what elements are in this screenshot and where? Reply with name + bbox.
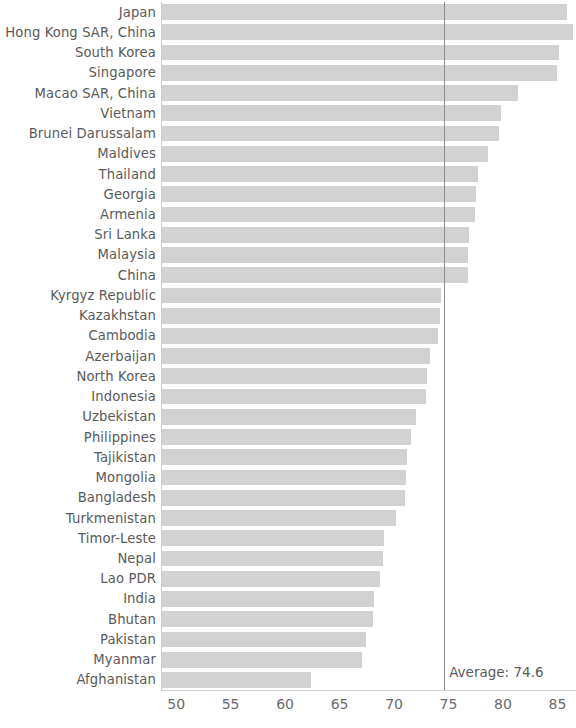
bar <box>162 247 468 263</box>
bar <box>162 348 430 364</box>
bar <box>162 591 374 607</box>
y-axis-label: Georgia <box>0 188 156 201</box>
y-axis-label: Indonesia <box>0 390 156 403</box>
y-axis-label: Armenia <box>0 208 156 221</box>
bar <box>162 449 407 465</box>
y-axis-label: Macao SAR, China <box>0 87 156 100</box>
bar <box>162 207 475 223</box>
bar <box>162 227 469 243</box>
x-axis-tick-label: 65 <box>331 697 349 711</box>
y-axis-label: Tajikistan <box>0 451 156 464</box>
bar <box>162 328 438 344</box>
horizontal-bar-chart: JapanHong Kong SAR, ChinaSouth KoreaSing… <box>0 0 576 728</box>
x-axis-tick-labels: 5055606570758085 <box>0 697 576 725</box>
bar <box>162 551 383 567</box>
bar <box>162 510 396 526</box>
bar <box>162 186 476 202</box>
y-axis-label: India <box>0 592 156 605</box>
bar <box>162 389 426 405</box>
bar <box>162 288 441 304</box>
bar <box>162 470 406 486</box>
plot-area <box>162 2 576 690</box>
y-axis-label: Afghanistan <box>0 673 156 686</box>
y-axis-label: Uzbekistan <box>0 410 156 423</box>
x-axis-tick-label: 85 <box>549 697 567 711</box>
x-axis-tick-label: 60 <box>276 697 294 711</box>
bar <box>162 368 427 384</box>
bar <box>162 490 405 506</box>
bar <box>162 85 518 101</box>
y-axis-label: Lao PDR <box>0 572 156 585</box>
y-axis-label: Timor-Leste <box>0 532 156 545</box>
y-axis-label: North Korea <box>0 370 156 383</box>
bar <box>162 4 567 20</box>
y-axis-label: China <box>0 269 156 282</box>
y-axis-label: Thailand <box>0 168 156 181</box>
y-axis-label: Cambodia <box>0 329 156 342</box>
y-axis-category-labels: JapanHong Kong SAR, ChinaSouth KoreaSing… <box>0 2 156 690</box>
y-axis-spine <box>161 2 162 690</box>
x-axis-tick-label: 55 <box>222 697 240 711</box>
bar <box>162 24 573 40</box>
bar <box>162 105 501 121</box>
y-axis-label: Pakistan <box>0 633 156 646</box>
y-axis-label: South Korea <box>0 46 156 59</box>
y-axis-label: Philippines <box>0 431 156 444</box>
y-axis-label: Malaysia <box>0 248 156 261</box>
bar <box>162 530 384 546</box>
bar <box>162 571 380 587</box>
bar <box>162 166 478 182</box>
y-axis-label: Azerbaijan <box>0 350 156 363</box>
x-axis-tick-label: 80 <box>494 697 512 711</box>
bar <box>162 652 362 668</box>
x-axis-tick-label: 70 <box>385 697 403 711</box>
x-axis-tick-label: 50 <box>167 697 185 711</box>
bar <box>162 672 311 688</box>
y-axis-label: Nepal <box>0 552 156 565</box>
x-axis-spine <box>161 690 576 691</box>
bar <box>162 45 559 61</box>
y-axis-label: Bhutan <box>0 613 156 626</box>
y-axis-label: Hong Kong SAR, China <box>0 26 156 39</box>
bar <box>162 409 416 425</box>
y-axis-label: Bangladesh <box>0 491 156 504</box>
x-axis-tick-label: 75 <box>440 697 458 711</box>
y-axis-label: Brunei Darussalam <box>0 127 156 140</box>
y-axis-label: Maldives <box>0 147 156 160</box>
y-axis-label: Turkmenistan <box>0 512 156 525</box>
bar <box>162 126 499 142</box>
y-axis-label: Kyrgyz Republic <box>0 289 156 302</box>
bar <box>162 146 488 162</box>
bar <box>162 267 468 283</box>
y-axis-label: Myanmar <box>0 653 156 666</box>
bar <box>162 429 411 445</box>
bar <box>162 611 373 627</box>
average-annotation-label: Average: 74.6 <box>449 666 543 680</box>
y-axis-label: Kazakhstan <box>0 309 156 322</box>
y-axis-label: Vietnam <box>0 107 156 120</box>
average-reference-line <box>444 2 445 690</box>
bar <box>162 308 440 324</box>
bar <box>162 65 557 81</box>
bar <box>162 632 366 648</box>
y-axis-label: Singapore <box>0 66 156 79</box>
y-axis-label: Mongolia <box>0 471 156 484</box>
y-axis-label: Sri Lanka <box>0 228 156 241</box>
y-axis-label: Japan <box>0 6 156 19</box>
